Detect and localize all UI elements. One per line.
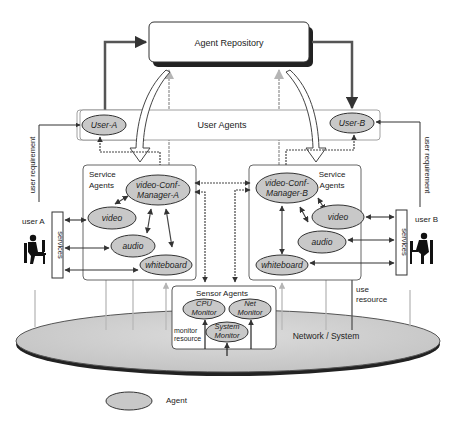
legend: Agent <box>106 392 188 410</box>
svg-text:System: System <box>214 322 239 331</box>
manager-a-to-sensor-link <box>195 192 205 282</box>
user-requirement-a-line <box>39 125 80 202</box>
svg-text:audio: audio <box>123 241 144 251</box>
user-b-agent[interactable]: User-B <box>330 113 374 133</box>
repository-to-user-b-arrow <box>312 42 352 108</box>
svg-text:Monitor: Monitor <box>214 331 240 340</box>
svg-text:Service: Service <box>89 170 116 179</box>
video-agent-a[interactable]: video <box>88 207 136 229</box>
user-a-agent[interactable]: User-A <box>82 115 126 135</box>
audio-agent-a[interactable]: audio <box>111 235 155 257</box>
svg-text:Manager-A: Manager-A <box>137 190 179 200</box>
system-monitor-agent[interactable]: System Monitor <box>206 322 248 342</box>
svg-text:whiteboard: whiteboard <box>145 260 187 270</box>
svg-text:Manager-B: Manager-B <box>266 188 308 198</box>
svg-text:Monitor: Monitor <box>237 308 263 317</box>
use-resource-label-2: resource <box>356 295 388 304</box>
network-system-label: Network / System <box>293 331 360 341</box>
repository-label: Agent Repository <box>194 38 264 48</box>
whiteboard-agent-b[interactable]: whiteboard <box>256 255 308 275</box>
svg-text:Sensor Agents: Sensor Agents <box>196 289 248 298</box>
video-conf-manager-a[interactable]: video-Conf- Manager-A <box>126 175 190 205</box>
whiteboard-agent-a[interactable]: whiteboard <box>140 255 192 275</box>
video-agent-b[interactable]: video <box>312 205 364 229</box>
svg-text:CPU: CPU <box>196 299 212 308</box>
svg-text:User-A: User-A <box>91 120 118 130</box>
video-conf-manager-b[interactable]: video-Conf- Manager-B <box>256 173 318 203</box>
svg-text:video: video <box>328 212 349 222</box>
user-b-label: user B <box>415 215 438 224</box>
svg-text:Service: Service <box>319 170 346 179</box>
monitor-resource-label-2: resource <box>174 335 201 342</box>
services-bar-a[interactable]: services <box>52 212 65 278</box>
svg-text:video: video <box>102 213 123 223</box>
svg-text:Monitor: Monitor <box>191 308 217 317</box>
user-requirement-a-label: user requirement <box>28 136 37 194</box>
manager-b-to-sensor-link <box>235 190 250 282</box>
svg-text:Agents: Agents <box>89 181 114 190</box>
svg-text:services: services <box>56 231 65 259</box>
services-bar-b[interactable]: services <box>396 210 409 275</box>
user-requirement-b-label: user requirement <box>423 137 432 195</box>
user-agents-label: User Agents <box>197 120 247 130</box>
agent-repository[interactable]: Agent Repository <box>149 22 313 67</box>
legend-agent-label: Agent <box>166 396 188 405</box>
user-a-label: user A <box>22 217 45 226</box>
user-a-person-icon <box>24 235 46 264</box>
svg-text:audio: audio <box>312 237 333 247</box>
audio-agent-b[interactable]: audio <box>298 231 346 253</box>
svg-text:User-B: User-B <box>339 118 366 128</box>
svg-text:services: services <box>400 228 409 256</box>
svg-text:whiteboard: whiteboard <box>261 260 303 270</box>
cpu-monitor-agent[interactable]: CPU Monitor <box>183 299 225 319</box>
legend-agent-swatch <box>106 392 152 410</box>
use-resource-label-1: use <box>356 285 369 294</box>
user-requirement-b-line <box>376 122 420 207</box>
svg-text:Agents: Agents <box>320 181 345 190</box>
diagram-canvas: Agent Repository User Agents User-A User… <box>0 0 455 428</box>
user-b-person-icon <box>410 233 433 264</box>
monitor-resource-label-1: monitor <box>174 327 198 334</box>
svg-text:video-Conf-: video-Conf- <box>136 180 180 190</box>
svg-text:Net: Net <box>244 299 257 308</box>
net-monitor-agent[interactable]: Net Monitor <box>229 299 271 319</box>
svg-text:video-Conf-: video-Conf- <box>265 178 309 188</box>
